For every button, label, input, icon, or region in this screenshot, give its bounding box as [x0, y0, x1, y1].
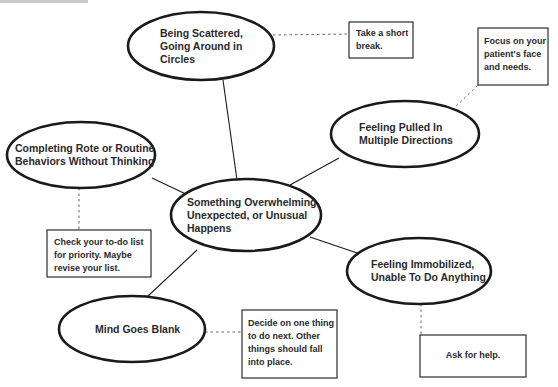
- node-label-rote: Completing Rote or Routine Behaviors Wit…: [15, 141, 155, 169]
- advice-text-blank: Decide on one thing to do next. Other th…: [248, 317, 340, 369]
- node-label-center: Something Overwhelming, Unexpected, or U…: [187, 194, 322, 236]
- node-label-immobilized: Feeling Immobilized, Unable To Do Anythi…: [371, 257, 491, 285]
- connector-center-pulled: [290, 158, 339, 185]
- advice-text-rote: Check your to-do list for priority. Mayb…: [54, 236, 154, 275]
- advice-text-pulled: Focus on your patient's face and needs.: [484, 35, 550, 74]
- connector-center-scattered: [223, 80, 237, 180]
- advice-text-immobilized: Ask for help.: [420, 349, 526, 362]
- dotted-pulled-advice: [452, 85, 478, 110]
- advice-text-scattered: Take a short break.: [356, 27, 416, 53]
- dotted-scattered-advice: [273, 34, 349, 35]
- node-label-scattered: Being Scattered, Going Around in Circles: [160, 24, 270, 68]
- connector-center-blank: [147, 250, 197, 297]
- node-label-pulled: Feeling Pulled In Multiple Directions: [359, 120, 474, 148]
- node-label-blank: Mind Goes Blank: [95, 322, 205, 337]
